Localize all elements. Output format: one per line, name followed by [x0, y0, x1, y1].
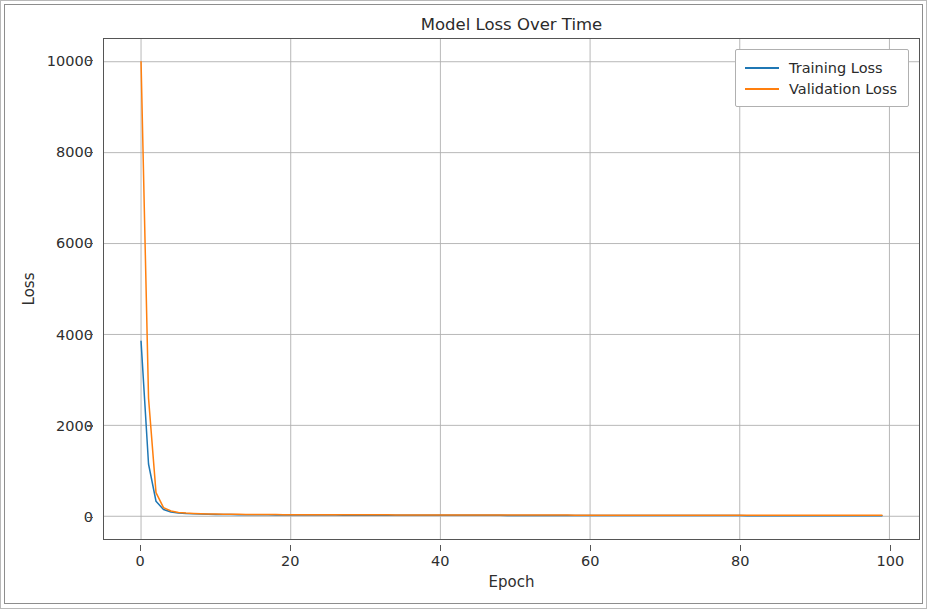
- y-tick-mark: [87, 243, 93, 244]
- x-tick-mark: [440, 545, 441, 551]
- legend-swatch-validation-loss: [745, 88, 779, 90]
- x-tick-mark: [290, 545, 291, 551]
- series-line-validation-loss: [141, 62, 882, 516]
- y-tick-mark: [87, 152, 93, 153]
- grid-lines: [104, 39, 919, 539]
- chart-title: Model Loss Over Time: [103, 14, 920, 36]
- figure-canvas: Model Loss Over Time Loss 02000400060008…: [0, 0, 927, 609]
- figure-inner-border: Model Loss Over Time Loss 02000400060008…: [4, 4, 923, 604]
- x-tick-mark: [890, 545, 891, 551]
- x-tick-label: 80: [731, 553, 749, 569]
- x-axis-tick-labels: 020406080100: [103, 545, 920, 569]
- series-line-training-loss: [141, 341, 882, 515]
- x-tick-label: 0: [136, 553, 145, 569]
- legend-label-validation-loss: Validation Loss: [789, 81, 897, 97]
- y-tick-label: 6000: [15, 235, 93, 251]
- y-tick-label: 2000: [15, 418, 93, 434]
- y-tick-mark: [87, 517, 93, 518]
- x-tick-label: 40: [431, 553, 449, 569]
- y-tick-mark: [87, 425, 93, 426]
- y-tick-label: 0: [15, 509, 93, 525]
- x-tick-label: 20: [281, 553, 299, 569]
- y-tick-label: 4000: [15, 327, 93, 343]
- y-tick-mark: [87, 60, 93, 61]
- plot-area: Training Loss Validation Loss: [103, 38, 920, 540]
- x-tick-label: 100: [877, 553, 905, 569]
- x-tick-mark: [590, 545, 591, 551]
- legend-swatch-training-loss: [745, 67, 779, 69]
- x-tick-label: 60: [581, 553, 599, 569]
- x-tick-mark: [140, 545, 141, 551]
- plot-svg: [104, 39, 919, 539]
- y-axis-tick-labels: 0200040006000800010000: [5, 38, 93, 540]
- legend-label-training-loss: Training Loss: [789, 60, 883, 76]
- legend: Training Loss Validation Loss: [735, 49, 909, 107]
- legend-item-training-loss: Training Loss: [745, 57, 897, 78]
- data-lines: [141, 62, 882, 516]
- y-tick-mark: [87, 334, 93, 335]
- y-tick-label: 8000: [15, 144, 93, 160]
- legend-item-validation-loss: Validation Loss: [745, 78, 897, 99]
- x-axis-label: Epoch: [103, 571, 920, 593]
- y-tick-label: 10000: [15, 53, 93, 69]
- x-tick-mark: [740, 545, 741, 551]
